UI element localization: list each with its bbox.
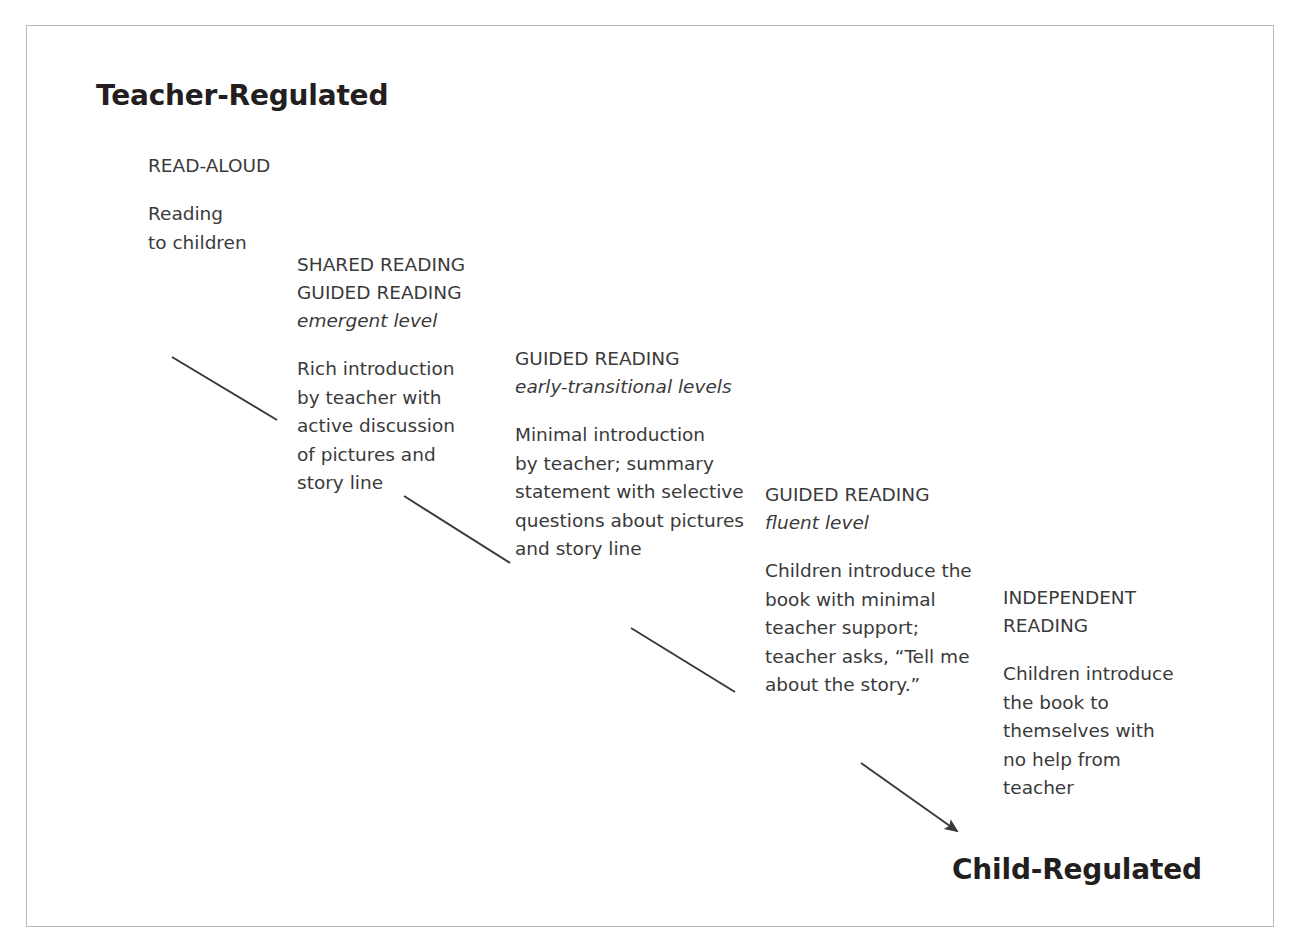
stage-shared-guided-body: Rich introduction by teacher with active… — [297, 355, 465, 498]
stage-guided-early-level: early-transitional levels — [515, 373, 744, 401]
stage-guided-early-body-line3: statement with selective — [515, 478, 744, 507]
stage-read-aloud-body-line1: Reading — [148, 200, 270, 229]
pole-label-teacher-regulated: Teacher-Regulated — [96, 79, 388, 112]
figure-canvas: Teacher-Regulated Child-Regulated READ-A… — [0, 0, 1295, 949]
stage-shared-guided-reading: SHARED READING GUIDED READING emergent l… — [297, 251, 465, 498]
stage-independent-body-line2: the book to — [1003, 689, 1174, 718]
stage-independent-body-line3: themselves with — [1003, 717, 1174, 746]
spacer — [515, 401, 744, 421]
spacer — [1003, 640, 1174, 660]
stage-read-aloud-body-line2: to children — [148, 229, 270, 258]
stage-shared-guided-body-line5: story line — [297, 469, 465, 498]
stage-independent-body-line4: no help from — [1003, 746, 1174, 775]
pole-label-child-regulated: Child-Regulated — [952, 853, 1202, 886]
stage-guided-fluent-level: fluent level — [765, 509, 972, 537]
stage-shared-guided-level: emergent level — [297, 307, 465, 335]
stage-independent-heading-line1: INDEPENDENT — [1003, 584, 1174, 612]
stage-guided-fluent-body-line4: teacher asks, “Tell me — [765, 643, 972, 672]
stage-read-aloud-heading: READ-ALOUD — [148, 152, 270, 180]
stage-guided-reading-fluent: GUIDED READING fluent level Children int… — [765, 481, 972, 700]
stage-guided-fluent-body-line5: about the story.” — [765, 671, 972, 700]
stage-guided-fluent-body: Children introduce the book with minimal… — [765, 557, 972, 700]
stage-guided-fluent-body-line3: teacher support; — [765, 614, 972, 643]
stage-guided-early-heading-line1: GUIDED READING — [515, 345, 744, 373]
stage-independent-body-line1: Children introduce — [1003, 660, 1174, 689]
stage-independent-heading: INDEPENDENT READING — [1003, 584, 1174, 640]
stage-independent-body: Children introduce the book to themselve… — [1003, 660, 1174, 803]
stage-shared-guided-body-line3: active discussion — [297, 412, 465, 441]
stage-guided-fluent-body-line1: Children introduce the — [765, 557, 972, 586]
stage-independent-reading: INDEPENDENT READING Children introduce t… — [1003, 584, 1174, 803]
spacer — [765, 537, 972, 557]
stage-read-aloud-heading-line1: READ-ALOUD — [148, 152, 270, 180]
stage-guided-fluent-heading: GUIDED READING fluent level — [765, 481, 972, 537]
stage-guided-reading-early: GUIDED READING early-transitional levels… — [515, 345, 744, 564]
stage-guided-fluent-heading-line1: GUIDED READING — [765, 481, 972, 509]
stage-shared-guided-body-line2: by teacher with — [297, 384, 465, 413]
stage-independent-body-line5: teacher — [1003, 774, 1174, 803]
stage-read-aloud: READ-ALOUD Reading to children — [148, 152, 270, 257]
stage-guided-early-body-line2: by teacher; summary — [515, 450, 744, 479]
stage-read-aloud-body: Reading to children — [148, 200, 270, 257]
stage-guided-early-body: Minimal introduction by teacher; summary… — [515, 421, 744, 564]
spacer — [297, 335, 465, 355]
stage-independent-heading-line2: READING — [1003, 612, 1174, 640]
spacer — [148, 180, 270, 200]
stage-guided-early-body-line1: Minimal introduction — [515, 421, 744, 450]
stage-shared-guided-heading-line2: GUIDED READING — [297, 279, 465, 307]
stage-shared-guided-heading: SHARED READING GUIDED READING emergent l… — [297, 251, 465, 335]
stage-guided-fluent-body-line2: book with minimal — [765, 586, 972, 615]
stage-guided-early-body-line5: and story line — [515, 535, 744, 564]
stage-guided-early-heading: GUIDED READING early-transitional levels — [515, 345, 744, 401]
stage-shared-guided-heading-line1: SHARED READING — [297, 251, 465, 279]
stage-shared-guided-body-line1: Rich introduction — [297, 355, 465, 384]
stage-shared-guided-body-line4: of pictures and — [297, 441, 465, 470]
stage-guided-early-body-line4: questions about pictures — [515, 507, 744, 536]
